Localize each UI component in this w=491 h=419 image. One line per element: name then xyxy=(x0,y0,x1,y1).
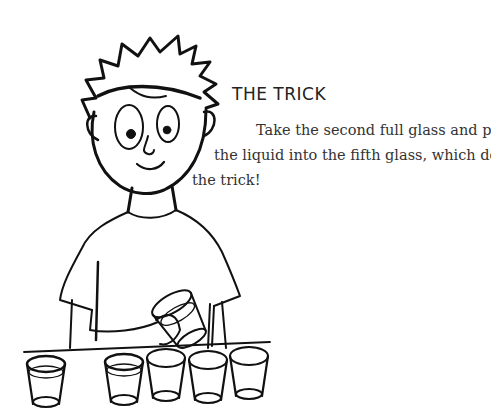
paragraph-line-3: the trick! xyxy=(192,168,487,193)
glass-6-icon xyxy=(230,347,268,399)
right-eye-icon xyxy=(157,106,179,142)
glass-4-icon xyxy=(147,349,185,401)
heading: THE TRICK xyxy=(232,84,326,104)
glass-1-icon xyxy=(27,356,65,407)
paragraph-line-2: the liquid into the fifth glass, which d… xyxy=(192,143,487,168)
hair-icon xyxy=(82,36,218,118)
glass-3-icon xyxy=(105,354,143,405)
shirt-icon xyxy=(60,212,128,310)
face-icon xyxy=(92,110,206,193)
glasses-row xyxy=(27,347,268,407)
glass-5-icon xyxy=(189,351,227,403)
smile-icon xyxy=(137,162,164,169)
explanation-paragraph: Take the second full glass and pour the … xyxy=(192,118,487,193)
paragraph-line-1: Take the second full glass and pour xyxy=(192,118,487,143)
left-eye-icon xyxy=(115,105,143,149)
boy-illustration xyxy=(0,0,491,419)
